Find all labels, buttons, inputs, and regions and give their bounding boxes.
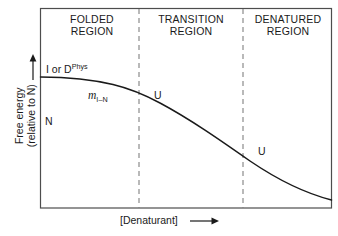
denatured-region-line1: DENATURED: [255, 13, 321, 25]
m-value-slope-label: mI–N: [88, 89, 108, 102]
intermediate-state-superscript: Phys: [72, 62, 88, 71]
denatured-region-line2: REGION: [267, 25, 310, 37]
y-axis-title-line1: Free energy: [13, 87, 25, 144]
intermediate-state-base: I or D: [46, 63, 72, 75]
y-axis-title: Free energy (relative to N): [14, 56, 38, 176]
folded-region-line1: FOLDED: [70, 13, 114, 25]
plot-frame: [41, 9, 332, 209]
native-state-label: N: [45, 116, 53, 128]
free-energy-curve: [41, 77, 332, 200]
x-axis-title: [Denaturant]: [120, 215, 178, 227]
transition-region-header: TRANSITION REGION: [142, 14, 240, 38]
transition-region-line2: REGION: [170, 25, 213, 37]
unfolded-state-label-denatured: U: [258, 146, 266, 158]
free-energy-denaturant-figure: FOLDED REGION TRANSITION REGION DENATURE…: [0, 0, 338, 236]
x-axis-arrow-icon: [190, 218, 219, 225]
folded-region-line2: REGION: [71, 25, 114, 37]
unfolded-state-label-transition: U: [154, 90, 162, 102]
folded-region-header: FOLDED REGION: [48, 14, 136, 38]
y-axis-title-line2: (relative to N): [26, 56, 38, 176]
transition-region-line1: TRANSITION: [158, 13, 224, 25]
denatured-region-header: DENATURED REGION: [244, 14, 332, 38]
m-subscript: I–N: [96, 95, 108, 104]
intermediate-state-label: I or DPhys: [46, 64, 88, 76]
